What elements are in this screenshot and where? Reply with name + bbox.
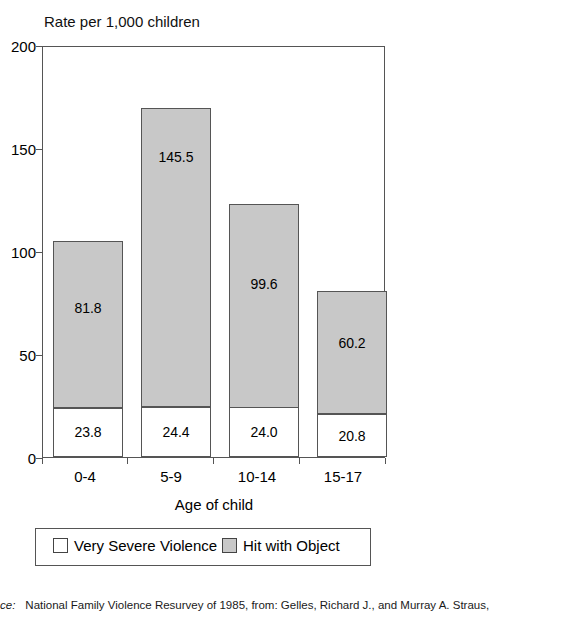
x-category-label-5-9: 5-9 [139,468,203,485]
bar-segment-very-severe-violence[interactable]: 24.4 [141,407,211,458]
y-tick-label-200: 200 [11,39,36,54]
y-tick-label-150: 150 [11,142,36,157]
bar-segment-very-severe-violence[interactable]: 24.0 [229,407,299,457]
bar-group-0-4[interactable]: 81.8 23.8 [53,241,123,457]
bar-value-label: 145.5 [142,149,210,165]
x-tick-mark-right [385,458,386,464]
x-tick-mark-3 [299,458,300,464]
bar-value-label: 20.8 [318,428,386,444]
legend-item-very-severe-violence[interactable]: Very Severe Violence [53,537,217,554]
legend-label: Very Severe Violence [74,537,217,554]
x-tick-mark-left [42,458,43,464]
bar-value-label: 24.4 [142,424,210,440]
legend-label: Hit with Object [243,537,340,554]
x-tick-mark-1 [127,458,128,464]
source-footnote: ce:National Family Violence Resurvey of … [0,598,584,612]
bar-value-label: 99.6 [230,276,298,292]
x-category-label-0-4: 0-4 [53,468,117,485]
y-tick-mark-100 [36,252,42,253]
bar-segment-hit-with-object[interactable]: 60.2 [317,291,387,415]
y-tick-label-0: 0 [28,451,36,466]
y-tick-label-100: 100 [11,245,36,260]
x-category-label-10-14: 10-14 [225,468,289,485]
legend-swatch-white-icon [53,538,68,553]
bar-value-label: 81.8 [54,300,122,316]
x-axis-title: Age of child [0,496,428,514]
bar-group-15-17[interactable]: 60.2 20.8 [317,291,387,457]
legend-swatch-gray-icon [222,538,237,553]
chart-title: Rate per 1,000 children [44,13,200,31]
chart-figure: Rate per 1,000 children 200 150 100 50 0… [0,0,584,621]
y-tick-mark-200 [36,46,42,47]
bar-group-5-9[interactable]: 145.5 24.4 [141,109,211,457]
legend-item-hit-with-object[interactable]: Hit with Object [222,537,340,554]
bar-value-label: 23.8 [54,424,122,440]
x-category-label-15-17: 15-17 [311,468,375,485]
bar-group-10-14[interactable]: 99.6 24.0 [229,204,299,457]
y-axis: 200 150 100 50 0 [0,36,42,468]
y-tick-mark-50 [36,355,42,356]
bar-segment-very-severe-violence[interactable]: 23.8 [53,408,123,457]
bar-segment-hit-with-object[interactable]: 99.6 [229,204,299,408]
y-tick-label-50: 50 [19,348,36,363]
source-text: National Family Violence Resurvey of 198… [25,599,489,611]
x-tick-mark-2 [213,458,214,464]
bar-value-label: 24.0 [230,424,298,440]
bar-segment-very-severe-violence[interactable]: 20.8 [317,414,387,457]
y-tick-mark-150 [36,149,42,150]
source-label: ce: [0,599,15,611]
legend: Very Severe Violence Hit with Object [35,528,371,566]
bar-segment-hit-with-object[interactable]: 81.8 [53,241,123,409]
bar-segment-hit-with-object[interactable]: 145.5 [141,108,211,407]
bar-value-label: 60.2 [318,335,386,351]
bars-layer: 81.8 23.8 145.5 24.4 99.6 24.0 60.2 [43,47,384,457]
